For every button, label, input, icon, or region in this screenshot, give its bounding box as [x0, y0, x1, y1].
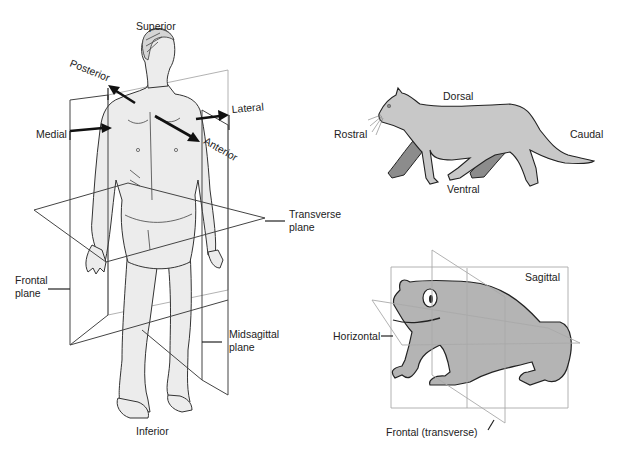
- label-rostral: Rostral: [334, 128, 367, 140]
- frog-figure: Sagittal Horizontal Frontal (transverse): [333, 250, 580, 438]
- label-frontal-plane-1: Frontal: [15, 274, 48, 286]
- label-ventral: Ventral: [447, 183, 480, 195]
- label-dorsal: Dorsal: [443, 90, 473, 102]
- label-frontal-transverse: Frontal (transverse): [386, 426, 478, 438]
- frontal-leader: [488, 420, 494, 430]
- label-inferior: Inferior: [136, 425, 169, 437]
- label-medial: Medial: [36, 128, 67, 140]
- label-transverse-plane-2: plane: [289, 221, 315, 233]
- label-posterior: Posterior: [68, 57, 112, 84]
- frog-body: [392, 280, 571, 385]
- label-horizontal: Horizontal: [333, 330, 380, 342]
- anatomy-diagram: Superior Inferior Posterior Anterior Med…: [0, 0, 621, 459]
- label-superior: Superior: [136, 20, 176, 32]
- label-transverse-plane-1: Transverse: [289, 208, 341, 220]
- label-frontal-plane-2: plane: [15, 287, 41, 299]
- label-sagittal: Sagittal: [525, 271, 560, 283]
- human-figure: Superior Inferior Posterior Anterior Med…: [15, 20, 341, 437]
- label-lateral: Lateral: [231, 100, 264, 115]
- label-midsagittal-plane-1: Midsagittal: [229, 328, 279, 340]
- label-caudal: Caudal: [570, 128, 603, 140]
- cat-eye: [387, 104, 390, 107]
- label-midsagittal-plane-2: plane: [229, 341, 255, 353]
- cat-figure: Dorsal Ventral Rostral Caudal: [334, 88, 603, 195]
